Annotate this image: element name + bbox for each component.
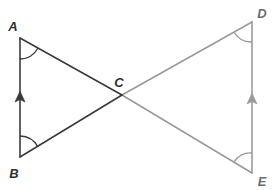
segment-BC [20,95,122,157]
angle-arc-E [234,153,252,162]
geometry-canvas: A B C D E [0,0,277,190]
angle-arc-B [20,136,38,147]
vertex-label-C: C [114,75,124,90]
angle-arc-D [234,32,252,42]
geometry-figure: A B C D E [0,0,277,190]
segment-AC [20,38,122,95]
angle-arc-A [20,48,38,59]
segment-CE [122,95,252,173]
vertex-label-D: D [257,6,267,21]
vertex-label-B: B [9,166,18,181]
vertex-label-E: E [258,174,267,189]
vertex-label-A: A [7,19,17,34]
segment-CD [122,22,252,95]
